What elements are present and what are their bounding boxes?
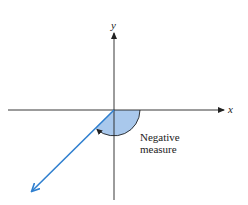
terminal-ray [33,110,114,190]
y-axis-label: y [111,19,116,31]
annotation-line-1: Negative [140,131,180,143]
annotation-line-2: measure [140,143,180,155]
angle-annotation: Negative measure [140,131,180,155]
angle-diagram [0,0,248,205]
x-axis-label: x [228,103,233,115]
angle-sector [96,110,140,136]
